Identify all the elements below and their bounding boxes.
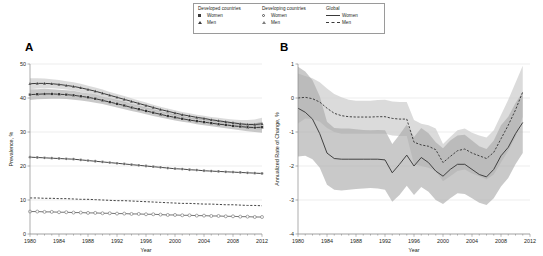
x-tick-label: 1984	[321, 238, 333, 244]
x-axis-title: Year	[409, 247, 420, 253]
y-axis-title: Prevalence, %	[8, 131, 14, 166]
data-marker	[210, 214, 213, 217]
x-tick-label: 1988	[350, 238, 362, 244]
data-marker	[130, 106, 133, 109]
data-marker	[159, 166, 162, 169]
data-marker	[253, 172, 256, 175]
data-marker	[43, 93, 46, 96]
data-marker	[50, 210, 53, 213]
dashed-line-icon	[326, 22, 342, 23]
y-tick-label: -2	[289, 163, 294, 169]
data-marker	[50, 93, 53, 96]
data-marker	[166, 167, 169, 170]
filled-triangle-icon	[198, 21, 207, 24]
data-marker	[123, 104, 126, 107]
data-marker	[145, 213, 148, 216]
data-marker	[87, 96, 90, 99]
y-tick-label: 0	[291, 95, 294, 101]
filled-square-icon	[198, 14, 207, 17]
data-marker	[239, 215, 242, 218]
x-tick-label: 2000	[437, 238, 449, 244]
panel-a-chart: 0102030405019801984198819921996200020042…	[2, 56, 272, 256]
data-marker	[72, 94, 75, 97]
series-line	[30, 198, 262, 206]
data-marker	[261, 216, 264, 219]
data-marker	[79, 95, 82, 98]
data-marker	[253, 126, 256, 129]
data-marker	[217, 214, 220, 217]
data-marker	[246, 171, 249, 174]
y-tick-label: 10	[20, 197, 26, 203]
x-tick-label: 2004	[466, 238, 478, 244]
data-marker	[224, 170, 227, 173]
legend-item: Men	[198, 19, 262, 26]
data-marker	[36, 93, 39, 96]
y-tick-label: -1	[289, 129, 294, 135]
data-marker	[58, 211, 61, 214]
data-marker	[188, 168, 191, 171]
data-marker	[217, 123, 220, 126]
data-marker	[94, 97, 97, 100]
x-tick-label: 2008	[227, 238, 239, 244]
data-marker	[116, 162, 119, 165]
data-marker	[137, 108, 140, 111]
data-marker	[246, 215, 249, 218]
legend-item: Women	[198, 12, 262, 19]
legend-item: Women	[262, 12, 326, 19]
data-marker	[159, 213, 162, 216]
data-marker	[166, 213, 169, 216]
legend-item: Men	[326, 19, 384, 26]
data-marker	[79, 211, 82, 214]
x-tick-label: 1992	[379, 238, 391, 244]
data-marker	[58, 93, 61, 96]
data-marker	[152, 165, 155, 168]
data-marker	[261, 172, 264, 175]
data-marker	[261, 126, 264, 129]
data-marker	[188, 119, 191, 122]
data-marker	[65, 157, 68, 160]
x-tick-label: 2012	[524, 238, 536, 244]
data-marker	[145, 110, 148, 113]
data-marker	[65, 93, 68, 96]
panel-a-label: A	[25, 41, 33, 53]
data-marker	[72, 211, 75, 214]
y-axis-title: Annualized Rate of Change, %	[274, 112, 280, 186]
data-marker	[108, 161, 111, 164]
data-marker	[116, 102, 119, 105]
data-marker	[232, 171, 235, 174]
open-circle-icon	[262, 14, 271, 17]
panel-b-label: B	[280, 41, 288, 53]
legend-item: Men	[262, 19, 326, 26]
x-tick-label: 1996	[140, 238, 152, 244]
data-marker	[101, 212, 104, 215]
data-marker	[101, 161, 104, 164]
data-marker	[166, 115, 169, 118]
data-marker	[232, 215, 235, 218]
data-marker	[181, 117, 184, 120]
data-marker	[145, 165, 148, 168]
data-marker	[203, 214, 206, 217]
data-marker	[123, 163, 126, 166]
data-marker	[152, 111, 155, 114]
data-marker	[210, 122, 213, 125]
panel-b-chart: -4-3-2-101198019841988199219962000200420…	[268, 56, 538, 256]
legend-item-label: Women	[271, 12, 287, 19]
data-marker	[195, 120, 198, 123]
y-tick-label: 30	[20, 129, 26, 135]
data-marker	[195, 169, 198, 172]
data-marker	[210, 170, 213, 173]
data-marker	[43, 210, 46, 213]
legend-item-label: Men	[271, 19, 280, 26]
data-marker	[101, 99, 104, 102]
data-marker	[58, 157, 61, 160]
data-marker	[159, 113, 162, 116]
data-marker	[246, 126, 249, 129]
data-marker	[50, 157, 53, 160]
x-tick-label: 1992	[111, 238, 123, 244]
legend-item-label: Women	[342, 12, 358, 19]
data-marker	[174, 116, 177, 119]
data-marker	[87, 159, 90, 162]
data-marker	[188, 214, 191, 217]
data-marker	[224, 124, 227, 127]
